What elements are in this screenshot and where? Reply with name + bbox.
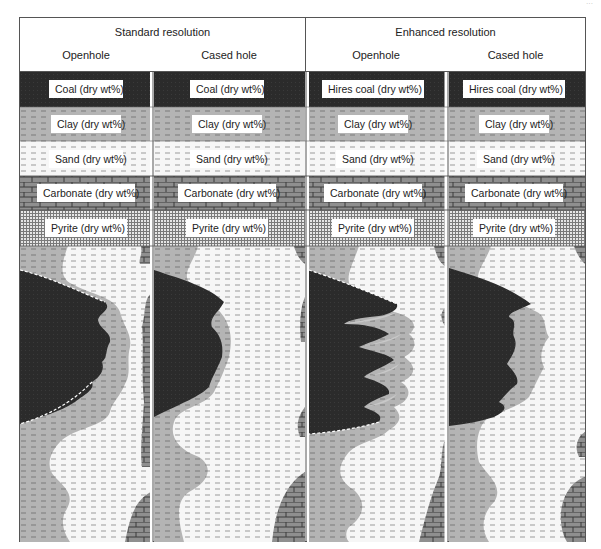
page-mark: ··· — [586, 0, 593, 7]
legend-carbonate-enh-openhole: Carbonate (dry wt%) — [324, 184, 422, 202]
legend-sand-enh-openhole: Sand (dry wt%) — [336, 150, 410, 168]
legend-carbonate-std-cased: Carbonate (dry wt%) — [178, 184, 276, 202]
legend-sand-enh-cased: Sand (dry wt%) — [477, 150, 551, 168]
legend-carbonate-std-openhole: Carbonate (dry wt%) — [37, 184, 135, 202]
header-standard-resolution: Standard resolution Openhole Cased hole — [20, 18, 306, 72]
legend-clay-enh-openhole: Clay (dry wt%) — [338, 115, 408, 133]
legend-sand-std-openhole: Sand (dry wt%) — [49, 150, 123, 168]
legend-hires-coal-enh-openhole: Hires coal (dry wt%) — [322, 80, 424, 98]
track-enhanced-openhole — [309, 72, 446, 542]
header-enhanced-resolution: Enhanced resolution Openhole Cased hole — [306, 18, 585, 72]
legend-pyrite-enh-cased: Pyrite (dry wt%) — [473, 219, 555, 237]
track-standard-cased — [154, 72, 305, 542]
legend-carbonate-enh-cased: Carbonate (dry wt%) — [465, 184, 563, 202]
legend-pyrite-std-openhole: Pyrite (dry wt%) — [45, 219, 127, 237]
legend-hires-coal-enh-cased: Hires coal (dry wt%) — [463, 80, 565, 98]
legend-clay-std-cased: Clay (dry wt%) — [192, 115, 262, 133]
legend-clay-std-openhole: Clay (dry wt%) — [51, 115, 121, 133]
group-title-standard: Standard resolution — [20, 26, 305, 38]
log-tracks — [20, 72, 585, 542]
track-enhanced-cased — [449, 72, 585, 542]
legend-clay-enh-cased: Clay (dry wt%) — [479, 115, 549, 133]
legend-pyrite-std-cased: Pyrite (dry wt%) — [186, 219, 268, 237]
legend-pyrite-enh-openhole: Pyrite (dry wt%) — [332, 219, 414, 237]
legend-coal-std-openhole: Coal (dry wt%) — [49, 80, 123, 98]
log-comparison-figure: Standard resolution Openhole Cased hole … — [19, 17, 586, 542]
column-title-enhanced-openhole: Openhole — [306, 49, 446, 61]
track-standard-openhole — [20, 72, 151, 542]
legend-sand-std-cased: Sand (dry wt%) — [190, 150, 264, 168]
column-title-standard-cased: Cased hole — [152, 49, 306, 61]
column-title-enhanced-cased: Cased hole — [446, 49, 585, 61]
column-title-standard-openhole: Openhole — [20, 49, 152, 61]
group-title-enhanced: Enhanced resolution — [306, 26, 585, 38]
legend-coal-std-cased: Coal (dry wt%) — [190, 80, 264, 98]
